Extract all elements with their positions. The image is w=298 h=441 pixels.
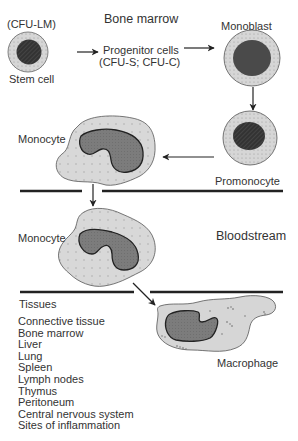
tissue-list: Connective tissue Bone marrow Liver Lung… — [18, 316, 134, 432]
promonocyte-label: Promonocyte — [215, 175, 280, 187]
stem-cell-sublabel: (CFU-LM) — [7, 18, 56, 30]
monoblast-label: Monoblast — [221, 20, 272, 32]
promonocyte-cell — [223, 111, 277, 165]
stem-cell-label: Stem cell — [9, 73, 54, 85]
region-bone-marrow-label: Bone marrow — [104, 13, 178, 25]
monocyte-marrow-cell — [56, 116, 155, 185]
region-tissues-label: Tissues — [19, 298, 57, 310]
tissue-item: Sites of inflammation — [18, 420, 134, 432]
tissue-item: Connective tissue — [18, 316, 134, 328]
tissue-item: Peritoneum — [18, 397, 134, 409]
macrophage-label: Macrophage — [217, 357, 278, 369]
tissue-item: Lymph nodes — [18, 374, 134, 386]
stem-cell — [8, 32, 48, 72]
monocyte-marrow-label: Monocyte — [18, 133, 66, 145]
progenitor-label-line1: Progenitor cells — [103, 44, 179, 56]
region-bloodstream-label: Bloodstream — [216, 230, 286, 242]
macrophage-cell — [157, 296, 276, 352]
monocyte-blood-cell — [58, 208, 155, 286]
arrow-blood-to-tissue — [133, 283, 155, 305]
progenitor-label-line2: (CFU-S; CFU-C) — [99, 56, 180, 68]
monoblast-cell — [224, 30, 280, 86]
monocyte-blood-label: Monocyte — [18, 232, 66, 244]
